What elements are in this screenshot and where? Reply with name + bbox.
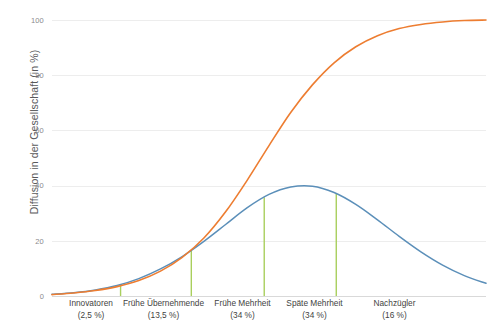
category-name: Nachzügler [374,298,416,308]
category-name: Innovatoren [69,298,113,308]
s-curve-series [52,20,486,295]
category-name: Frühe Übernehmende [123,298,204,308]
category-label-spaete-mehrheit: Späte Mehrheit (34 %) [272,298,357,321]
category-name: Frühe Mehrheit [214,298,270,308]
category-share: (34 %) [272,310,357,322]
category-name: Späte Mehrheit [286,298,342,308]
bell-curve-series [52,186,486,295]
category-label-nachzuegler: Nachzügler (16 %) [352,298,437,321]
category-share: (16 %) [352,310,437,322]
plot-area [0,0,490,336]
diffusion-chart: Diffusion in der Gesellschaft (in %) 100… [0,0,490,336]
